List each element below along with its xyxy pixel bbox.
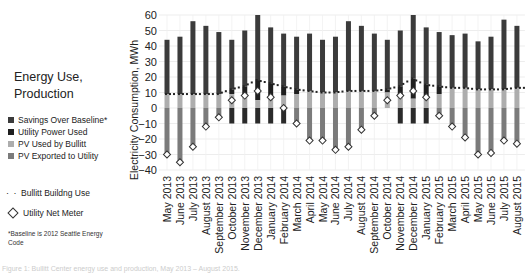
building-use-dot: [402, 83, 404, 85]
building-use-dot: [506, 88, 508, 90]
building-use-dot: [428, 84, 430, 86]
building-use-dot: [458, 87, 460, 89]
building-use-dot: [502, 88, 504, 90]
bar-pv-used: [203, 94, 208, 108]
x-tick-label: July 2015: [498, 176, 510, 221]
building-use-dot: [290, 87, 292, 89]
bar-pv-used: [294, 94, 299, 108]
chart-plot: 6050403020100−10−20−30−40May 2013June 20…: [0, 0, 531, 274]
bar-savings: [359, 26, 364, 91]
building-use-dot: [286, 86, 288, 88]
bar-savings: [346, 21, 351, 91]
bar-savings: [450, 35, 455, 88]
bar-pv-used: [450, 88, 455, 108]
bar-savings: [268, 27, 273, 83]
bar-utility-below: [255, 108, 260, 124]
bar-savings: [411, 15, 416, 79]
x-tick-label: January 2015: [420, 176, 432, 240]
y-tick-label: 20: [145, 71, 157, 83]
x-tick-label: October 2013: [226, 176, 238, 240]
bar-pv-used: [320, 93, 325, 109]
bar-savings: [190, 21, 195, 94]
x-tick-label: August 2014: [355, 176, 367, 235]
building-use-dot: [295, 88, 297, 90]
bar-savings: [165, 40, 170, 94]
building-use-dot: [350, 90, 352, 92]
bar-savings: [501, 20, 506, 90]
building-use-dot: [173, 93, 175, 95]
building-use-dot: [277, 84, 279, 86]
y-tick-label: 60: [145, 9, 157, 21]
y-tick-label: −10: [138, 118, 157, 130]
building-use-dot: [337, 91, 339, 93]
bar-savings: [281, 34, 286, 87]
building-use-dot: [208, 93, 210, 95]
bar-savings: [437, 32, 442, 86]
building-use-dot: [341, 91, 343, 93]
x-tick-label: February 2014: [278, 176, 290, 244]
bar-pv-used: [346, 91, 351, 108]
building-use-dot: [489, 88, 491, 90]
bar-savings: [203, 26, 208, 94]
bar-savings: [229, 40, 234, 90]
x-tick-label: May 2015: [472, 176, 484, 222]
bar-pv-exported: [463, 108, 468, 137]
building-use-dot: [165, 93, 167, 95]
bar-pv-exported: [476, 108, 481, 155]
building-use-dot: [282, 85, 284, 87]
building-use-dot: [169, 93, 171, 95]
x-tick-label: July 2014: [342, 176, 354, 221]
y-tick-label: 10: [145, 87, 157, 99]
y-tick-label: 40: [145, 40, 157, 52]
x-tick-label: September 2014: [368, 176, 380, 254]
y-tick-label: −20: [138, 133, 157, 145]
bar-pv-used: [489, 89, 494, 108]
building-use-dot: [238, 86, 240, 88]
building-use-dot: [251, 81, 253, 83]
building-use-dot: [299, 89, 301, 91]
bar-utility-below: [268, 108, 273, 124]
x-tick-label: August 2013: [200, 176, 212, 235]
x-tick-label: September 2013: [213, 176, 225, 254]
building-use-dot: [256, 79, 258, 81]
building-use-dot: [510, 87, 512, 89]
bar-pv-used: [165, 94, 170, 108]
building-use-dot: [441, 86, 443, 88]
bar-pv-used: [514, 88, 519, 108]
x-tick-label: December 2013: [252, 176, 264, 251]
building-use-dot: [212, 93, 214, 95]
bar-pv-exported: [307, 108, 312, 141]
building-use-dot: [484, 88, 486, 90]
bar-savings: [333, 37, 338, 93]
building-use-dot: [424, 84, 426, 86]
bar-savings: [424, 27, 429, 84]
x-tick-label: February 2015: [433, 176, 445, 244]
building-use-dot: [234, 87, 236, 89]
bar-savings: [320, 40, 325, 93]
building-use-dot: [195, 93, 197, 95]
building-use-dot: [480, 88, 482, 90]
building-use-dot: [186, 93, 188, 95]
x-tick-label: May 2014: [317, 176, 329, 222]
building-use-dot: [406, 81, 408, 83]
building-use-dot: [445, 86, 447, 88]
building-use-dot: [316, 91, 318, 93]
bar-pv-used: [216, 94, 221, 108]
building-use-dot: [432, 85, 434, 87]
bar-savings: [489, 37, 494, 90]
building-use-dot: [389, 87, 391, 89]
bar-pv-exported: [190, 108, 195, 147]
bar-savings: [514, 26, 519, 88]
x-tick-label: March 2015: [446, 176, 458, 232]
bar-utility-below: [411, 108, 416, 124]
bar-pv-exported: [489, 108, 494, 153]
x-tick-label: July 2013: [187, 176, 199, 221]
bar-pv-used: [333, 93, 338, 109]
bar-pv-exported: [346, 108, 351, 147]
building-use-dot: [178, 93, 180, 95]
bar-pv-exported: [320, 108, 325, 141]
x-tick-label: December 2014: [407, 176, 419, 251]
building-use-dot: [493, 88, 495, 90]
building-use-dot: [419, 81, 421, 83]
building-use-dot: [515, 87, 517, 89]
